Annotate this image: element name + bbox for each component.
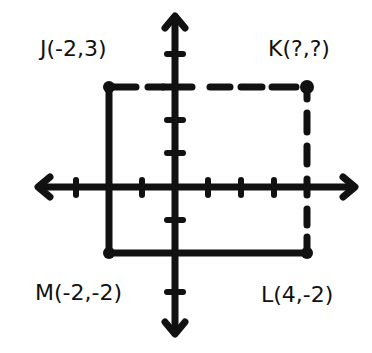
point-l (301, 247, 313, 259)
point-k (300, 80, 314, 94)
label-m: M(-2,-2) (35, 280, 122, 305)
label-l: L(4,-2) (261, 282, 333, 307)
point-m (103, 247, 115, 259)
label-j: J(-2,3) (40, 36, 107, 61)
point-j (103, 81, 115, 93)
label-k: K(?,?) (268, 36, 330, 61)
